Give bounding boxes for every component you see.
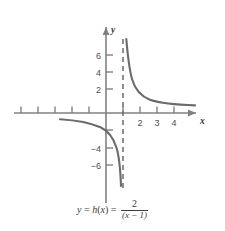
y-axis-arrowhead [103,27,110,35]
y-tick-label-2: 2 [96,85,101,95]
x-axis-arrowhead [188,110,196,117]
y-tick-label-neg-6: −6 [91,161,101,171]
caption-equals-2: = [111,204,117,215]
caption-y: y [77,204,81,215]
caption-paren-close: ) [105,204,108,215]
caption-equals-1: = [84,204,90,215]
graph-canvas: 2 3 4 6 4 2 −4 −6 y x [0,0,225,231]
equation-caption: y = h(x) = 2 (x − 1) [0,200,225,221]
function-graph-figure: 2 3 4 6 4 2 −4 −6 y x y = h(x) = 2 (x − … [0,0,225,231]
x-tick-label-3: 3 [154,118,159,128]
y-tick-label-4: 4 [96,68,101,78]
caption-fraction: 2 (x − 1) [121,199,148,220]
x-axis-label: x [199,116,205,126]
x-tick-label-2: 2 [137,118,142,128]
x-axis [14,110,196,117]
fraction-denominator: (x − 1) [121,210,148,220]
y-axis-ticks [106,55,113,165]
fraction-numerator: 2 [121,199,148,210]
x-axis-ticks-negative [21,107,89,114]
y-axis [103,27,110,203]
x-tick-label-4: 4 [171,118,176,128]
curve-right-branch [126,39,195,105]
y-tick-label-6: 6 [96,51,101,61]
y-tick-label-neg-4: −4 [91,144,101,154]
x-axis-ticks-positive [123,107,174,114]
y-axis-label: y [110,25,116,35]
